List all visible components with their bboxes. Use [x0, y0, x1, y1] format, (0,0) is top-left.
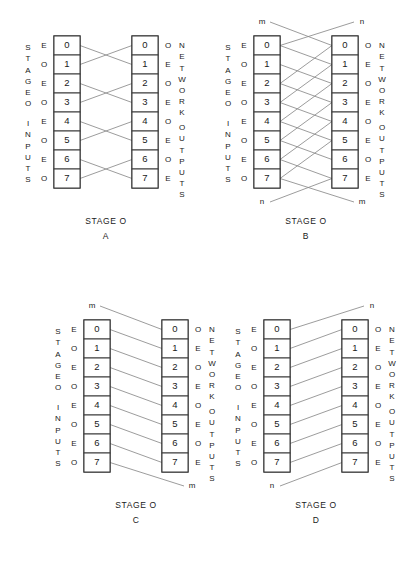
- input-column-cell-label: 3: [274, 380, 279, 391]
- panel-c-canvas: mm0E1O2E3O4E5O6E7O0O1E2O3E4O5E6O7ESTAGEO…: [34, 292, 230, 544]
- output-column-parity-label: O: [165, 117, 171, 126]
- input-column-cell-label: 4: [64, 115, 69, 126]
- stage-inputs-label-bottom: INPUTS: [25, 119, 31, 184]
- output-column-cell-label: 4: [142, 115, 147, 126]
- wrap-top-right-label: n: [370, 301, 374, 310]
- network-outputs-label-bottom-letter: O: [379, 123, 385, 132]
- input-column-parity-label: E: [241, 79, 246, 88]
- link-line: [290, 387, 342, 406]
- output-column-cell-label: 6: [142, 153, 147, 164]
- stage-inputs-label-bottom-letter: T: [226, 164, 231, 173]
- link-line: [280, 141, 332, 179]
- stage-inputs-label-bottom-letter: P: [235, 426, 240, 435]
- network-outputs-label-bottom-letter: U: [179, 168, 185, 177]
- output-column-parity-label: E: [165, 136, 170, 145]
- panel-c: mm0E1O2E3O4E5O6E7O0O1E2O3E4O5E6O7ESTAGEO…: [34, 292, 230, 544]
- output-column-cell-label: 0: [172, 323, 177, 334]
- stage-inputs-label-bottom-letter: P: [25, 142, 30, 151]
- panel-caption: STAGE O: [85, 216, 126, 226]
- stage-inputs-label-top-letter: E: [235, 372, 240, 381]
- output-column-parity-label: E: [375, 344, 380, 353]
- output-column-parity-label: E: [375, 382, 380, 391]
- output-column-cell-label: 1: [142, 58, 147, 69]
- panel-b: mnnm0E1O2E3O4E5O6E7O0O1E2O3E4O5E6O7ESTAG…: [204, 8, 400, 260]
- network-outputs-label-bottom-letter: T: [180, 146, 185, 155]
- stage-inputs-label-bottom-letter: N: [25, 130, 31, 139]
- input-column-parity-label: O: [41, 60, 47, 69]
- input-column-parity-label: O: [41, 174, 47, 183]
- output-column-parity-label: O: [165, 155, 171, 164]
- output-column-cell-label: 3: [352, 380, 357, 391]
- stage-inputs-label-bottom-letter: U: [225, 153, 231, 162]
- network-outputs-label-top: NETWORK: [178, 41, 186, 117]
- stage-inputs-label-top-letter: A: [235, 350, 241, 359]
- stage-inputs-label-top-letter: S: [25, 43, 30, 52]
- network-outputs-label-bottom: OUTPUTS: [389, 407, 395, 483]
- input-column-cell-label: 7: [274, 456, 279, 467]
- stage-inputs-label-top-letter: T: [226, 54, 231, 63]
- output-column-cell-label: 0: [142, 39, 147, 50]
- output-column-cell-label: 2: [342, 77, 347, 88]
- stage-inputs-label-top-letter: T: [26, 54, 31, 63]
- stage-inputs-label-top: STAGEO: [225, 43, 231, 108]
- stage-inputs-label-bottom: INPUTS: [225, 119, 231, 184]
- input-column-cell-label: 2: [274, 361, 279, 372]
- output-column-parity-label: E: [195, 458, 200, 467]
- network-outputs-label-top-letter: N: [379, 41, 385, 50]
- output-column-parity-label: O: [375, 325, 381, 334]
- output-column-parity-label: E: [375, 458, 380, 467]
- network-outputs-label-bottom-letter: T: [380, 146, 385, 155]
- link-line: [110, 444, 162, 463]
- stage-inputs-label-top-letter: G: [25, 77, 31, 86]
- input-column-parity-label: E: [71, 363, 76, 372]
- network-outputs-label-top: NETWORK: [388, 325, 396, 401]
- link-line: [280, 103, 332, 122]
- output-column-parity-label: O: [365, 117, 371, 126]
- link-line: [290, 330, 342, 349]
- stage-inputs-label-bottom-letter: T: [56, 448, 61, 457]
- input-column: 0E1O2E3O4E5O6E7O: [41, 36, 80, 188]
- output-column-cell-label: 0: [352, 323, 357, 334]
- output-column-cell-label: 3: [142, 96, 147, 107]
- network-outputs-label-bottom-letter: T: [390, 430, 395, 439]
- input-column-parity-label: E: [71, 325, 76, 334]
- stage-inputs-label-top: STAGEO: [235, 327, 241, 392]
- input-column-parity-label: E: [251, 401, 256, 410]
- output-column-parity-label: O: [365, 155, 371, 164]
- wrap-top-left-label: m: [89, 301, 96, 310]
- stage-inputs-label-bottom: INPUTS: [55, 403, 61, 468]
- output-column-parity-label: E: [195, 420, 200, 429]
- link-layer: [80, 46, 132, 179]
- input-column-cell-label: 4: [274, 399, 279, 410]
- output-column-cell-label: 3: [172, 380, 177, 391]
- output-column-parity-label: O: [375, 401, 381, 410]
- link-line: [280, 141, 332, 160]
- network-outputs-label-top-letter: T: [390, 348, 395, 357]
- output-column-parity-label: O: [375, 439, 381, 448]
- network-outputs-label-bottom-letter: T: [180, 179, 185, 188]
- wrap-top-right-label: n: [360, 17, 364, 26]
- stage-inputs-label-top-letter: S: [235, 327, 240, 336]
- output-column-parity-label: O: [165, 41, 171, 50]
- link-line: [280, 160, 332, 179]
- link-line: [110, 368, 162, 387]
- output-column-cell-label: 4: [172, 399, 177, 410]
- network-outputs-label-bottom: OUTPUTS: [179, 123, 185, 199]
- input-column: 0E1O2E3O4E5O6E7O: [71, 320, 110, 472]
- stage-inputs-label-bottom: INPUTS: [235, 403, 241, 468]
- link-line: [280, 65, 332, 103]
- input-column-parity-label: O: [251, 420, 257, 429]
- panel-d-canvas: nn0E1O2E3O4E5O6E7O0O1E2O3E4O5E6O7ESTAGEO…: [214, 292, 400, 544]
- input-column-parity-label: O: [41, 136, 47, 145]
- output-column-cell-label: 2: [352, 361, 357, 372]
- stage-inputs-label-top-letter: O: [25, 99, 31, 108]
- network-outputs-label-bottom: OUTPUTS: [379, 123, 385, 199]
- network-outputs-label-bottom-letter: U: [389, 452, 395, 461]
- network-outputs-label-bottom-letter: T: [390, 463, 395, 472]
- panel-caption: STAGE O: [115, 500, 156, 510]
- output-column: 0O1E2O3E4O5E6O7E: [162, 320, 201, 472]
- output-column-parity-label: E: [195, 344, 200, 353]
- output-column-cell-label: 1: [352, 342, 357, 353]
- stage-inputs-label-top-letter: S: [225, 43, 230, 52]
- output-column-cell-label: 7: [142, 172, 147, 183]
